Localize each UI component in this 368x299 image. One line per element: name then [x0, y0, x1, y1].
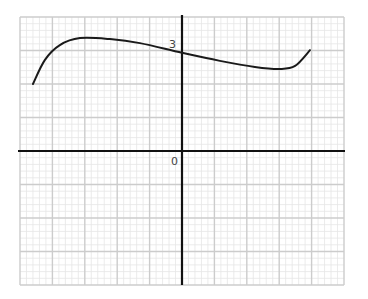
function-plot: 3 0 [0, 0, 368, 299]
origin-label: 0 [171, 155, 178, 168]
y-tick-label-3: 3 [169, 38, 176, 51]
